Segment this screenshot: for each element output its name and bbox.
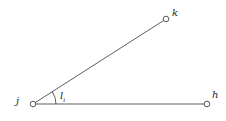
node-k xyxy=(163,16,169,22)
angle-arc xyxy=(52,92,56,104)
label-h: h xyxy=(212,89,218,100)
node-h xyxy=(204,101,210,107)
edge-j-k xyxy=(33,19,166,104)
label-k: k xyxy=(172,7,178,18)
angle-label-sub: i xyxy=(63,96,65,103)
angle-label: li xyxy=(60,90,65,103)
node-j xyxy=(30,101,36,107)
angle-diagram: j k h li xyxy=(0,0,226,121)
label-j: j xyxy=(14,95,19,106)
